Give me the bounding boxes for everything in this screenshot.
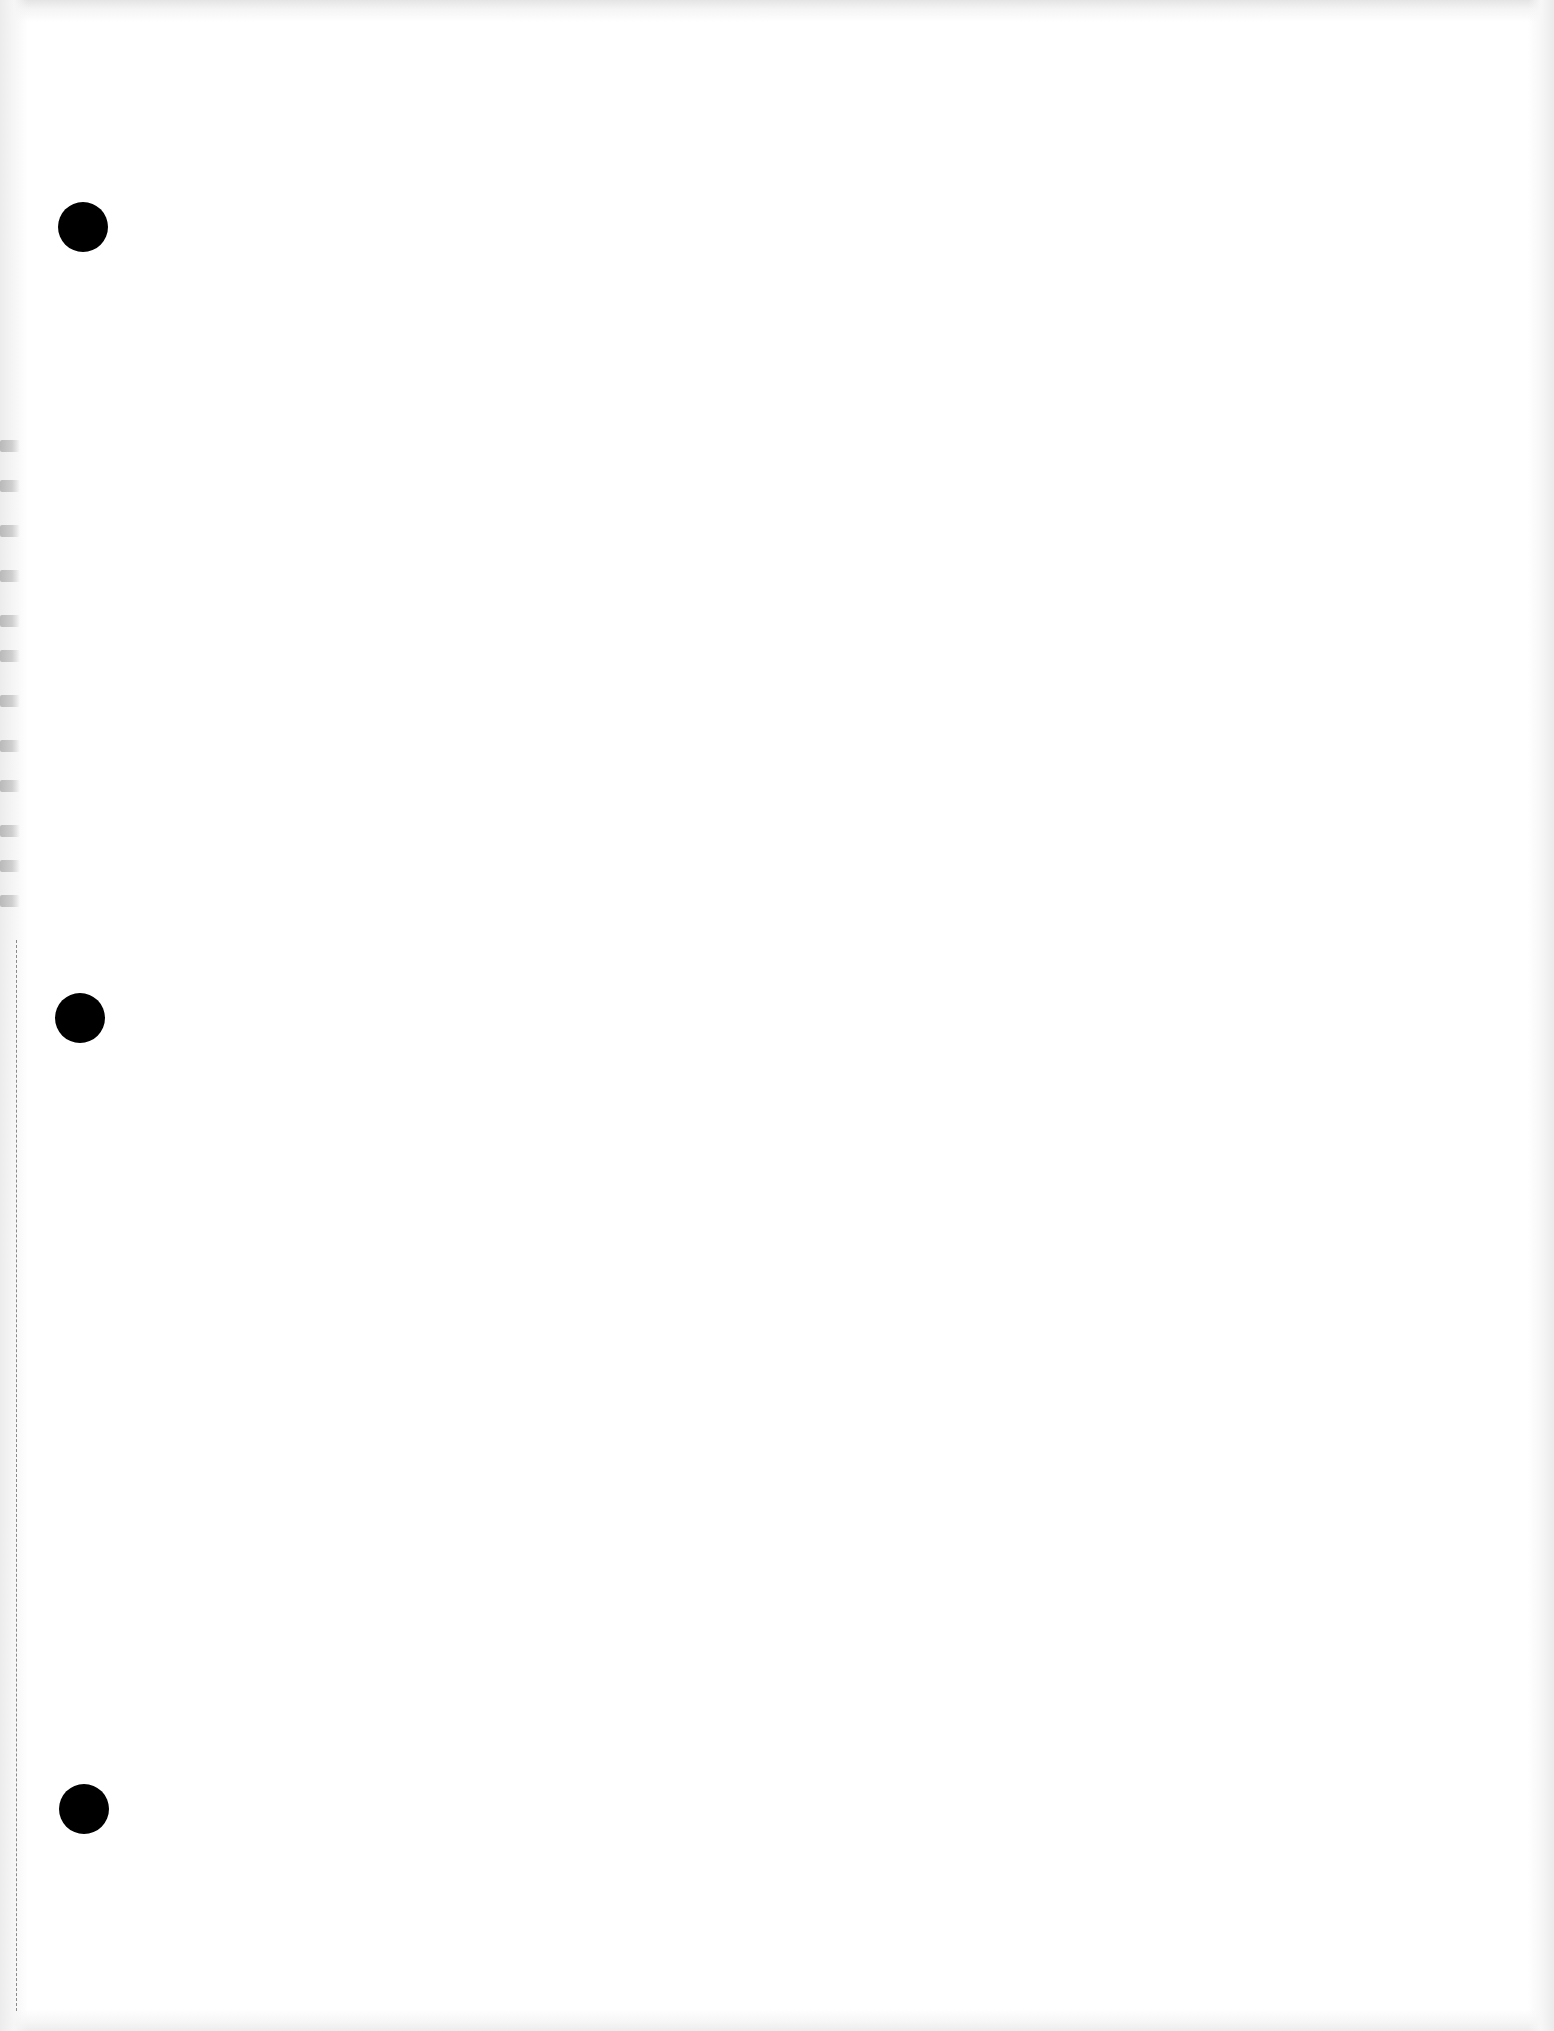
scan-edge-top — [0, 0, 1554, 22]
scan-edge-left — [0, 0, 28, 2031]
smudge-mark — [0, 570, 20, 582]
smudge-mark — [0, 525, 20, 537]
smudge-mark — [0, 895, 20, 907]
paper-sheet — [0, 0, 1554, 2031]
smudge-mark — [0, 825, 20, 837]
smudge-mark — [0, 860, 20, 872]
punch-hole-middle — [55, 993, 105, 1043]
smudge-mark — [0, 480, 20, 492]
scan-edge-right — [1528, 0, 1554, 2031]
smudge-mark — [0, 695, 20, 707]
scan-edge-bottom — [0, 2009, 1554, 2031]
perforation-line — [16, 940, 17, 2011]
punch-hole-bottom — [59, 1784, 109, 1834]
smudge-mark — [0, 615, 20, 627]
smudge-mark — [0, 740, 20, 752]
smudge-mark — [0, 780, 20, 792]
smudge-mark — [0, 440, 20, 452]
punch-hole-top — [58, 202, 108, 252]
smudge-mark — [0, 650, 20, 662]
margin-smudges — [0, 440, 20, 920]
